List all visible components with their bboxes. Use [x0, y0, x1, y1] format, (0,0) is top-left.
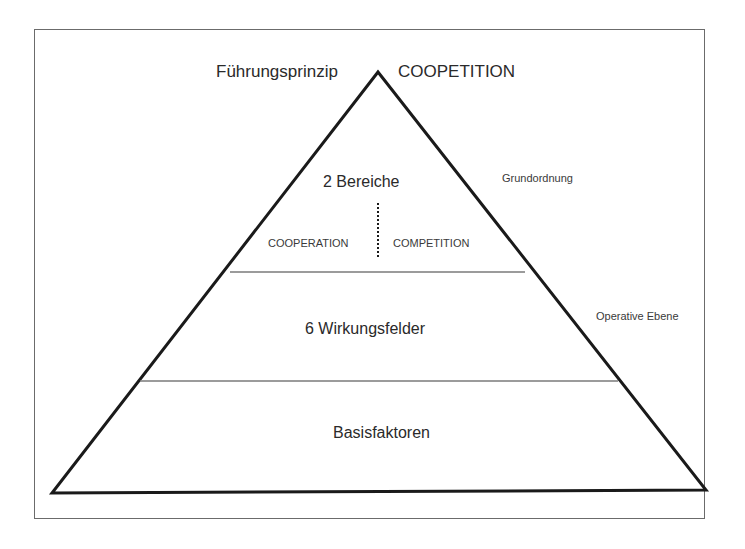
level-1-title: 2 Bereiche — [323, 173, 400, 191]
split-right-label: COMPETITION — [393, 237, 469, 249]
level-3-title: Basisfaktoren — [333, 424, 430, 442]
header-right-label: COOPETITION — [398, 62, 515, 82]
level-2-title: 6 Wirkungsfelder — [305, 320, 425, 338]
split-left-label: COOPERATION — [268, 237, 348, 249]
level-1-side-label: Grundordnung — [502, 172, 573, 184]
header-left-label: Führungsprinzip — [216, 62, 338, 82]
level-2-side-label: Operative Ebene — [596, 310, 679, 322]
pyramid-graphic — [0, 0, 745, 549]
